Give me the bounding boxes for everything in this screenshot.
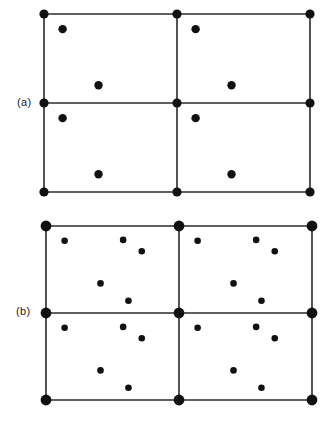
panel-a: [32, 2, 322, 204]
basis-atom-dot: [97, 367, 104, 374]
basis-atom-dot: [120, 237, 127, 244]
panel-a-lattice: [32, 2, 322, 204]
lattice-point-dot: [174, 308, 185, 319]
lattice-point-dot: [172, 98, 181, 107]
panel-b: [34, 214, 324, 412]
basis-atom-dot: [58, 114, 66, 122]
basis-atom-dot: [253, 324, 260, 331]
lattice-point-dot: [39, 187, 48, 196]
lattice-point-dot: [174, 395, 185, 406]
basis-atom-dot: [94, 170, 102, 178]
basis-atom-dot: [271, 248, 278, 255]
basis-atom-dot: [194, 324, 201, 331]
lattice-point-dot: [174, 221, 185, 232]
panel-b-label: (b): [16, 305, 30, 317]
basis-atom-dot: [191, 25, 199, 33]
basis-atom-dot: [271, 335, 278, 342]
figure-root: (a)(b): [0, 0, 334, 433]
basis-atom-dot: [194, 237, 201, 244]
panel-b-lattice: [34, 214, 324, 412]
lattice-point-dot: [307, 395, 318, 406]
basis-atom-dot: [94, 81, 102, 89]
lattice-point-dot: [305, 187, 314, 196]
lattice-point-dot: [305, 98, 314, 107]
lattice-point-dot: [172, 9, 181, 18]
lattice-point-dot: [172, 187, 181, 196]
basis-atom-dot: [58, 25, 66, 33]
lattice-point-dot: [307, 308, 318, 319]
basis-atom-dot: [138, 335, 145, 342]
lattice-point-dot: [41, 221, 52, 232]
basis-atom-dot: [125, 385, 132, 392]
basis-atom-dot: [258, 385, 265, 392]
lattice-point-dot: [41, 308, 52, 319]
basis-atom-dot: [97, 280, 104, 287]
basis-atom-dot: [230, 280, 237, 287]
lattice-point-dot: [305, 9, 314, 18]
basis-atom-dot: [125, 298, 132, 305]
basis-atom-dot: [258, 298, 265, 305]
panel-a-label: (a): [17, 96, 31, 108]
basis-atom-dot: [227, 81, 235, 89]
lattice-point-dot: [39, 9, 48, 18]
lattice-point-dot: [307, 221, 318, 232]
basis-atom-dot: [230, 367, 237, 374]
basis-atom-dot: [61, 324, 68, 331]
basis-atom-dot: [227, 170, 235, 178]
basis-atom-dot: [191, 114, 199, 122]
basis-atom-dot: [61, 237, 68, 244]
lattice-point-dot: [41, 395, 52, 406]
lattice-point-dot: [39, 98, 48, 107]
basis-atom-dot: [138, 248, 145, 255]
basis-atom-dot: [253, 237, 260, 244]
basis-atom-dot: [120, 324, 127, 331]
